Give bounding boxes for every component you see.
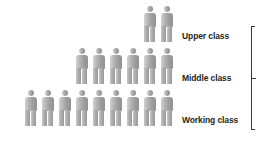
person-head [164,90,170,96]
person-leg-right [116,68,121,84]
person-icon [109,90,122,126]
person-head [147,6,153,12]
person-leg-right [116,110,121,126]
chart-row-working-class [24,88,173,126]
person-icon [143,48,156,84]
person-icon [92,90,105,126]
person-leg-left [93,68,98,84]
person-torso [110,55,122,69]
person-torso [144,97,156,111]
person-leg-right [82,110,87,126]
person-torso [161,55,173,69]
person-icon [160,90,173,126]
person-head [62,90,68,96]
person-leg-right [167,26,172,42]
person-torso [161,13,173,27]
person-leg-right [133,68,138,84]
brace-cap-bottom [251,129,255,130]
person-leg-left [144,110,149,126]
person-icon [75,48,88,84]
brace-icon [247,26,256,130]
person-head [28,90,34,96]
person-leg-right [167,68,172,84]
person-torso [127,55,139,69]
brace-cap-top [251,26,255,27]
person-leg-right [150,26,155,42]
person-torso [76,97,88,111]
person-leg-left [144,68,149,84]
person-icon [24,90,37,126]
person-torso [42,97,54,111]
person-icon [160,6,173,42]
person-head [164,48,170,54]
person-torso [59,97,71,111]
person-icon [41,90,54,126]
person-head [147,90,153,96]
person-leg-right [167,110,172,126]
person-leg-right [150,110,155,126]
person-head [147,48,153,54]
person-torso [93,97,105,111]
person-head [79,48,85,54]
person-torso [144,13,156,27]
person-leg-left [42,110,47,126]
person-torso [25,97,37,111]
person-head [130,48,136,54]
person-torso [127,97,139,111]
person-leg-left [110,68,115,84]
person-icon [92,48,105,84]
person-head [113,48,119,54]
person-icon [58,90,71,126]
person-leg-left [144,26,149,42]
person-icon [160,48,173,84]
person-torso [110,97,122,111]
person-head [130,90,136,96]
person-leg-left [161,110,166,126]
person-torso [93,55,105,69]
person-head [79,90,85,96]
person-leg-right [99,110,104,126]
person-leg-left [127,110,132,126]
person-leg-right [65,110,70,126]
person-leg-left [93,110,98,126]
social-class-pictogram-chart: Upper class Middle class Working class [0,0,260,144]
person-icon [109,48,122,84]
person-icon [143,90,156,126]
person-leg-right [31,110,36,126]
row-label-working-class: Working class [182,115,238,125]
person-leg-right [133,110,138,126]
row-label-middle-class: Middle class [182,73,231,83]
person-leg-right [48,110,53,126]
person-head [96,48,102,54]
person-icon [126,90,139,126]
person-leg-left [76,110,81,126]
person-leg-right [82,68,87,84]
person-icon [75,90,88,126]
person-head [164,6,170,12]
row-label-upper-class: Upper class [182,31,229,41]
person-leg-left [110,110,115,126]
person-leg-left [127,68,132,84]
person-head [45,90,51,96]
chart-row-middle-class [75,46,173,84]
person-leg-right [150,68,155,84]
person-torso [161,97,173,111]
person-torso [76,55,88,69]
person-icon [143,6,156,42]
person-torso [144,55,156,69]
person-leg-left [161,68,166,84]
person-leg-left [25,110,30,126]
brace-center-tick [252,78,256,79]
person-head [96,90,102,96]
person-leg-left [161,26,166,42]
person-leg-right [99,68,104,84]
person-leg-left [76,68,81,84]
chart-row-upper-class [143,4,173,42]
person-leg-left [59,110,64,126]
person-icon [126,48,139,84]
person-head [113,90,119,96]
